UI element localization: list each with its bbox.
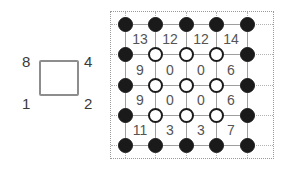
cell-value: 12 (193, 32, 209, 46)
grid-node-filled (179, 17, 194, 32)
grid-node-filled (240, 78, 255, 93)
cell-value: 12 (162, 32, 178, 46)
cell-value: 6 (227, 63, 235, 77)
cell-value: 0 (166, 93, 174, 107)
cell-value: 9 (136, 93, 144, 107)
grid-node-hollow (179, 47, 194, 62)
grid-node-hollow (179, 108, 194, 123)
figure-canvas: 8 4 1 2 (0, 0, 284, 169)
grid-node-filled (240, 108, 255, 123)
legend-corner-bottom-right: 2 (84, 96, 92, 111)
cell-value: 6 (227, 93, 235, 107)
grid-node-hollow (209, 78, 224, 93)
legend-corner-top-left: 8 (22, 54, 30, 69)
legend-corner-bottom-left: 1 (22, 96, 30, 111)
cell-value: 0 (197, 93, 205, 107)
grid-node-hollow (148, 108, 163, 123)
grid-node-filled (118, 17, 133, 32)
cell-value: 14 (223, 32, 239, 46)
grid-node-filled (209, 138, 224, 153)
grid-node-filled (148, 138, 163, 153)
grid-node-filled (209, 17, 224, 32)
cell-value: 7 (227, 123, 235, 137)
grid-node-filled (118, 108, 133, 123)
legend-corner-weight-square: 8 4 1 2 (22, 46, 98, 114)
grid-node-hollow (179, 78, 194, 93)
grid-node-filled (179, 138, 194, 153)
grid-node-filled (148, 17, 163, 32)
cell-value: 0 (166, 63, 174, 77)
grid-node-filled (118, 47, 133, 62)
grid-panel: 13 12 12 14 9 0 0 6 9 0 0 6 11 3 3 7 (110, 11, 274, 159)
grid-node-filled (240, 17, 255, 32)
cell-value: 0 (197, 63, 205, 77)
cell-value: 9 (136, 63, 144, 77)
grid-node-hollow (209, 108, 224, 123)
grid-node-filled (118, 78, 133, 93)
cell-value: 13 (132, 32, 148, 46)
grid-node-hollow (148, 47, 163, 62)
cell-value: 11 (133, 123, 148, 137)
grid-node-hollow (209, 47, 224, 62)
cell-value: 3 (197, 123, 205, 137)
cell-value: 3 (166, 123, 174, 137)
legend-corner-top-right: 4 (84, 54, 92, 69)
grid-node-hollow (148, 78, 163, 93)
grid-node-filled (118, 138, 133, 153)
grid-node-filled (240, 138, 255, 153)
legend-square-shape (39, 60, 79, 96)
grid-node-filled (240, 47, 255, 62)
